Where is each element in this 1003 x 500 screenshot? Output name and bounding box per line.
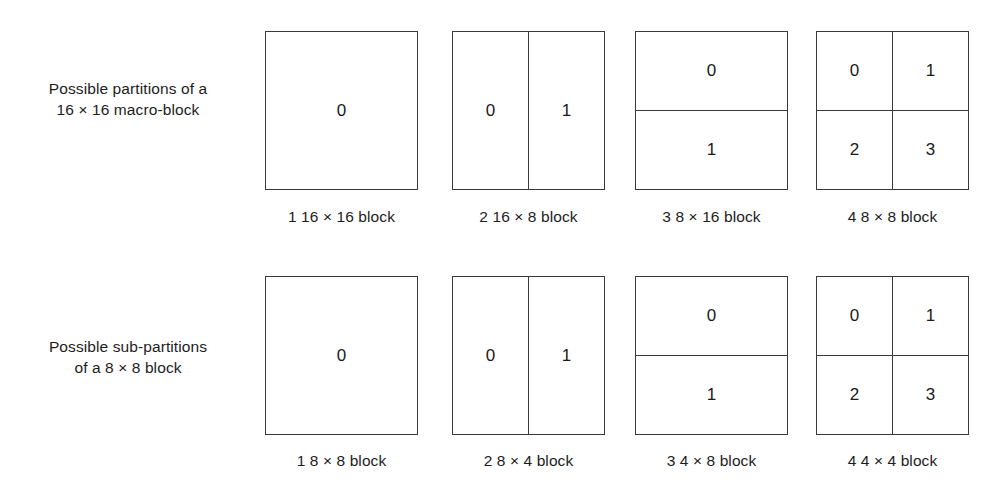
partition-cell: 1 xyxy=(636,110,787,189)
row-label-sub-partitions: Possible sub-partitions of a 8 × 8 block xyxy=(8,336,248,378)
partition-cell: 1 xyxy=(528,32,604,189)
subpartition-block-8x8: 0 xyxy=(265,276,418,435)
macroblock-partition-figure: Possible partitions of a 16 × 16 macro-b… xyxy=(0,0,1003,500)
partition-caption-8x8: 4 8 × 8 block xyxy=(805,208,980,226)
partition-cell: 1 xyxy=(892,277,968,355)
subpartition-caption-8x8: 1 8 × 8 block xyxy=(254,452,429,470)
partition-cell: 0 xyxy=(453,32,528,189)
row-label-line-1: Possible sub-partitions xyxy=(8,336,248,357)
partition-caption-16x16: 1 16 × 16 block xyxy=(254,208,429,226)
partition-block-16x8: 0 1 xyxy=(452,31,605,190)
subpartition-caption-8x4: 2 8 × 4 block xyxy=(441,452,616,470)
partition-block-8x16: 0 1 xyxy=(635,31,788,190)
partition-cell: 0 xyxy=(636,32,787,110)
subpartition-block-4x4: 0 1 2 3 xyxy=(816,276,969,435)
partition-cell: 1 xyxy=(892,32,968,110)
partition-quad-row: 0 1 xyxy=(817,277,968,355)
partition-caption-8x16: 3 8 × 16 block xyxy=(624,208,799,226)
partition-cell: 0 xyxy=(266,277,417,434)
row-label-line-2: 16 × 16 macro-block xyxy=(8,99,248,120)
partition-cell: 2 xyxy=(817,111,892,189)
partition-cell: 1 xyxy=(528,277,604,434)
partition-caption-16x8: 2 16 × 8 block xyxy=(441,208,616,226)
subpartition-block-4x8: 0 1 xyxy=(635,276,788,435)
partition-quad-row: 2 3 xyxy=(817,110,968,189)
subpartition-block-8x4: 0 1 xyxy=(452,276,605,435)
partition-block-8x8: 0 1 2 3 xyxy=(816,31,969,190)
row-label-line-1: Possible partitions of a xyxy=(8,78,248,99)
partition-cell: 0 xyxy=(817,32,892,110)
partition-cell: 0 xyxy=(453,277,528,434)
partition-cell: 3 xyxy=(892,356,968,434)
row-label-macro-block: Possible partitions of a 16 × 16 macro-b… xyxy=(8,78,248,120)
partition-quad-row: 2 3 xyxy=(817,355,968,434)
row-label-line-2: of a 8 × 8 block xyxy=(8,357,248,378)
partition-cell: 1 xyxy=(636,355,787,434)
partition-cell: 0 xyxy=(266,32,417,189)
partition-cell: 0 xyxy=(817,277,892,355)
partition-cell: 0 xyxy=(636,277,787,355)
partition-block-16x16: 0 xyxy=(265,31,418,190)
subpartition-caption-4x4: 4 4 × 4 block xyxy=(805,452,980,470)
partition-cell: 2 xyxy=(817,356,892,434)
partition-cell: 3 xyxy=(892,111,968,189)
subpartition-caption-4x8: 3 4 × 8 block xyxy=(624,452,799,470)
partition-quad-row: 0 1 xyxy=(817,32,968,110)
